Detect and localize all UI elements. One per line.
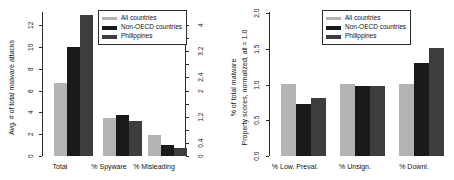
legend-swatch-non-oecd: [102, 26, 117, 30]
right-chart-y-tick-label: 2.0: [254, 1, 261, 25]
left-chart-y2-tick: [186, 64, 189, 65]
left-chart-y-tick: [39, 69, 42, 70]
legend-swatch-non-oecd: [326, 26, 341, 30]
left-chart-y-tick-label: 8: [28, 59, 35, 79]
legend-label-philippines: Philippines: [345, 33, 376, 40]
bar-misleading-philippines: [174, 148, 187, 156]
bar-unsign-non-oecd: [355, 86, 370, 156]
left-chart-y-tick-label: 6: [28, 81, 35, 101]
left-chart-y-tick: [39, 134, 42, 135]
bar-spyware-all-countries: [103, 118, 116, 156]
right-chart-y-tick: [266, 156, 269, 157]
chart-page: Avg. # of total malware attacks % of tot…: [0, 0, 454, 180]
legend-item-non-oecd: Non-OECD countries: [326, 23, 406, 32]
legend-label-non-oecd: Non-OECD countries: [121, 24, 182, 31]
left-chart-y-tick-label: 12: [28, 15, 35, 35]
left-chart-y2-tick: [186, 77, 189, 78]
bar-total-non-oecd: [67, 47, 80, 156]
left-chart-y2-tick-label: 4: [198, 15, 205, 35]
left-chart-y-axis-line: [42, 12, 43, 156]
legend-label-all-countries: All countries: [121, 15, 156, 22]
right-chart-y-tick: [266, 13, 269, 14]
left-chart-y2-tick-label: 3.2: [198, 41, 205, 61]
legend-item-philippines: Philippines: [102, 32, 182, 41]
left-chart-y2-tick: [186, 91, 189, 92]
bar-total-philippines: [80, 15, 93, 156]
left-chart-legend: All countries Non-OECD countries Philipp…: [98, 10, 187, 45]
right-chart-y-axis-line: [269, 12, 270, 156]
right-chart-panel: Property scores, normalized, all = 1.0 0…: [227, 0, 454, 180]
bar-downl-philippines: [429, 48, 444, 156]
bar-misleading-all-countries: [148, 135, 161, 156]
left-chart-y2-tick-label: 2.4: [198, 68, 205, 88]
right-chart-x-label-downl: % Downl.: [379, 163, 449, 170]
left-chart-y-tick: [39, 25, 42, 26]
legend-item-all-countries: All countries: [326, 14, 406, 23]
legend-swatch-philippines: [102, 35, 117, 39]
legend-swatch-philippines: [326, 35, 341, 39]
legend-item-non-oecd: Non-OECD countries: [102, 23, 182, 32]
bar-spyware-philippines: [129, 121, 142, 156]
legend-swatch-all-countries: [102, 17, 117, 20]
right-chart-y-tick-label: 0.5: [254, 109, 261, 133]
bar-low-preval-non-oecd: [296, 104, 311, 156]
bar-low-preval-philippines: [311, 98, 326, 156]
left-chart-y-tick-label: 10: [28, 37, 35, 57]
bar-total-all-countries: [54, 83, 67, 156]
left-chart-y-axis-title: Avg. # of total malware attacks: [8, 33, 15, 143]
right-chart-legend: All countries Non-OECD countries Philipp…: [322, 10, 411, 45]
left-chart-x-label-misleading: % Misleading: [124, 163, 184, 170]
bar-unsign-all-countries: [340, 84, 355, 156]
left-chart-y2-tick: [186, 104, 189, 105]
left-chart-y-tick: [39, 47, 42, 48]
left-chart-y-tick-label: 4: [28, 103, 35, 123]
left-chart-y2-tick-label: 0.4: [198, 133, 205, 153]
left-chart-y2-tick: [186, 51, 189, 52]
legend-swatch-all-countries: [326, 17, 341, 20]
left-chart-y-tick-label: 2: [28, 124, 35, 144]
bar-low-preval-all-countries: [281, 84, 296, 156]
bar-spyware-non-oecd: [116, 115, 129, 157]
right-chart-y-tick-label: 1.5: [254, 37, 261, 61]
left-chart-y-tick: [39, 91, 42, 92]
left-chart-y-tick: [39, 156, 42, 157]
right-chart-y-tick-label: 1.0: [254, 73, 261, 97]
legend-item-all-countries: All countries: [102, 14, 182, 23]
bar-misleading-non-oecd: [161, 145, 174, 156]
legend-label-all-countries: All countries: [345, 15, 380, 22]
legend-label-non-oecd: Non-OECD countries: [345, 24, 406, 31]
bar-downl-non-oecd: [414, 63, 429, 156]
left-chart-y2-tick-label: 1.2: [198, 107, 205, 127]
right-chart-y-tick: [266, 49, 269, 50]
left-chart-y-tick: [39, 112, 42, 113]
right-chart-y-tick: [266, 120, 269, 121]
bar-unsign-philippines: [370, 86, 385, 156]
left-chart-y2-tick: [186, 117, 189, 118]
bar-downl-all-countries: [399, 84, 414, 156]
right-chart-y-tick: [266, 85, 269, 86]
left-chart-y2-tick: [186, 143, 189, 144]
right-chart-y-axis-title: Property scores, normalized, all = 1.0: [241, 23, 248, 153]
legend-item-philippines: Philippines: [326, 32, 406, 41]
legend-label-philippines: Philippines: [121, 33, 152, 40]
left-chart-y2-tick: [186, 130, 189, 131]
left-chart-panel: Avg. # of total malware attacks % of tot…: [0, 0, 227, 180]
left-chart-y2-tick: [186, 156, 189, 157]
